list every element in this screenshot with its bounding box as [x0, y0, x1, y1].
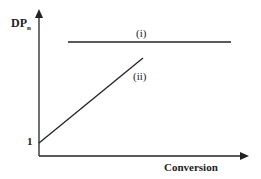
origin-tick-label: 1 — [27, 135, 33, 147]
x-axis-label: Conversion — [164, 161, 218, 173]
y-axis-arrow-icon — [35, 9, 43, 18]
y-axis-label-sub: n — [27, 24, 31, 32]
x-axis-arrow-icon — [240, 152, 249, 160]
y-axis-label-main: DP — [11, 16, 27, 30]
line-ii — [39, 58, 143, 143]
y-axis-label: DPn — [11, 16, 31, 32]
diagram-canvas — [0, 0, 261, 179]
line-ii-label: (ii) — [133, 70, 146, 82]
line-i-label: (i) — [136, 27, 146, 39]
